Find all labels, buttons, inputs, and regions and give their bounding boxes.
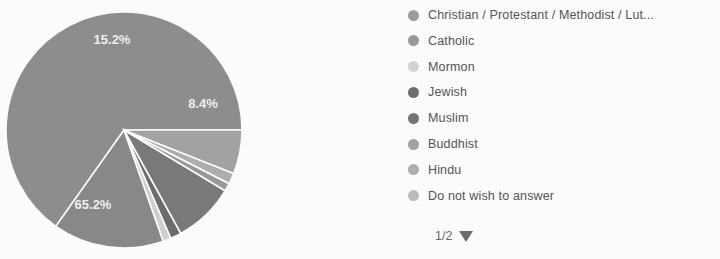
legend: Christian / Protestant / Methodist / Lut… xyxy=(404,0,720,259)
legend-pager[interactable]: 1/2 xyxy=(435,229,473,243)
pager-label: 1/2 xyxy=(435,229,452,243)
legend-item[interactable]: Christian / Protestant / Methodist / Lut… xyxy=(404,4,654,26)
legend-item[interactable]: Mormon xyxy=(404,56,475,78)
legend-color-swatch-icon xyxy=(408,10,419,21)
legend-color-swatch-icon xyxy=(408,113,419,124)
legend-color-swatch-icon xyxy=(408,139,419,150)
legend-item-label: Catholic xyxy=(428,34,474,48)
legend-color-swatch-icon xyxy=(408,87,419,98)
legend-item-label: Buddhist xyxy=(428,137,478,151)
triangle-down-icon[interactable] xyxy=(459,231,473,242)
pie-slice-value-label: 15.2% xyxy=(94,32,131,47)
legend-color-swatch-icon xyxy=(408,61,419,72)
legend-item-label: Jewish xyxy=(428,85,467,99)
legend-color-swatch-icon xyxy=(408,190,419,201)
legend-item-label: Christian / Protestant / Methodist / Lut… xyxy=(428,8,654,22)
legend-item[interactable]: Muslim xyxy=(404,107,468,129)
legend-item-label: Hindu xyxy=(428,163,461,177)
legend-item[interactable]: Catholic xyxy=(404,30,474,52)
legend-item-label: Muslim xyxy=(428,111,468,125)
pie-chart-panel: 15.2%8.4%65.2% xyxy=(0,0,400,259)
pie-slice-value-label: 8.4% xyxy=(188,96,218,111)
legend-item[interactable]: Hindu xyxy=(404,159,461,181)
pie-slice-value-label: 65.2% xyxy=(75,197,112,212)
legend-item[interactable]: Do not wish to answer xyxy=(404,185,554,207)
legend-color-swatch-icon xyxy=(408,164,419,175)
pie-slice-group xyxy=(6,12,242,248)
legend-item[interactable]: Jewish xyxy=(404,81,467,103)
pie-chart: 15.2%8.4%65.2% xyxy=(0,0,400,259)
legend-item-label: Mormon xyxy=(428,60,475,74)
legend-color-swatch-icon xyxy=(408,35,419,46)
legend-item[interactable]: Buddhist xyxy=(404,133,478,155)
legend-item-label: Do not wish to answer xyxy=(428,189,554,203)
